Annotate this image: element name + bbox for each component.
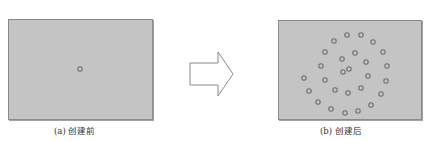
sprite-circle [302,76,306,80]
sprite-circle [371,40,375,44]
sprite-circle [78,67,82,71]
sprite-circle [307,89,311,93]
sprite-circle [381,50,385,54]
sprite-circle [341,70,345,74]
sprite-circle [323,50,327,54]
sprite-circle [323,78,327,82]
sprite-circle [359,33,363,37]
sprite-circle [347,67,351,71]
sprite-circle [369,103,373,107]
sprite-circle [356,109,360,113]
sprite-circle [385,64,389,68]
sprite-circle [333,88,337,92]
sprite-circle [340,57,344,61]
sprite-circle [343,111,347,115]
sprite-circle [345,33,349,37]
sprite-circle [379,92,383,96]
sprite-circle [366,74,370,78]
sprite-layer [0,0,424,141]
sprite-circle [353,51,357,55]
sprite-circle [346,91,350,95]
sprite-circle [384,79,388,83]
sprite-circle [316,100,320,104]
sprite-circle [319,64,323,68]
sprite-circle [364,60,368,64]
sprite-circle [359,86,363,90]
sprite-circle [332,39,336,43]
sprite-circle [329,107,333,111]
